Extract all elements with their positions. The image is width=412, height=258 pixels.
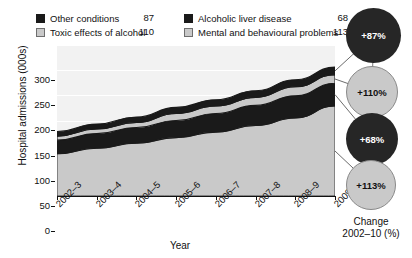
legend-value: 110 [134,26,154,37]
legend-label: Alcoholic liver disease [198,13,291,24]
legend-item-other-conditions: Other conditions [36,12,119,25]
change-caption-line2: 2002–10 (%) [325,228,412,240]
legend-value: 87 [134,12,154,23]
y-axis-tick-mark [51,156,55,157]
legend-row: Other conditions 87 Alcoholic liver dise… [36,12,356,25]
stacked-area-series [57,45,335,196]
y-axis-tick-label: 250 [4,100,50,110]
y-axis-tick-mark [51,80,55,81]
change-circle-toxic-effects: +110% [346,66,398,118]
legend-swatch-icon [184,28,193,37]
x-axis-title: Year [110,240,250,251]
y-axis-tick-mark [51,231,55,232]
chart-figure: Other conditions 87 Alcoholic liver dise… [0,0,412,258]
change-circle-mental-behavioural: +113% [346,160,396,210]
y-axis-tick-label: 150 [4,151,50,161]
legend-label: Mental and behavioural problems [198,27,338,38]
legend-item-alcoholic-liver-disease: Alcoholic liver disease [184,12,291,25]
legend-label: Toxic effects of alcohol [50,27,145,38]
legend-item-mental-and-behavioural-problems: Mental and behavioural problems [184,26,338,39]
change-circle-alcoholic-liver: +68% [346,113,398,165]
chart-legend: Other conditions 87 Alcoholic liver dise… [36,12,356,42]
plot-area [57,45,335,196]
y-axis-tick-label: 300 [4,75,50,85]
y-axis-tick-label: 200 [4,125,50,135]
legend-swatch-icon [184,14,193,23]
legend-row: Toxic effects of alcohol 110 Mental and … [36,26,356,39]
y-axis-tick-label: 50 [4,201,50,211]
y-axis: Hospital admissions (000s) 0501001502002… [0,40,57,205]
legend-swatch-icon [36,28,45,37]
y-axis-tick-mark [51,130,55,131]
change-caption: Change 2002–10 (%) [325,216,412,240]
y-axis-tick-label: 0 [4,226,50,236]
y-axis-tick-mark [51,105,55,106]
change-circle-other-conditions: +87% [346,8,401,63]
change-caption-line1: Change [325,216,412,228]
change-circles-panel: +87% +110% +68% +113% [338,0,412,200]
y-axis-tick-mark [51,181,55,182]
legend-swatch-icon [36,14,45,23]
legend-label: Other conditions [50,13,119,24]
y-axis-tick-mark [51,206,55,207]
legend-item-toxic-effects-of-alcohol: Toxic effects of alcohol [36,26,145,39]
y-axis-tick-label: 100 [4,176,50,186]
